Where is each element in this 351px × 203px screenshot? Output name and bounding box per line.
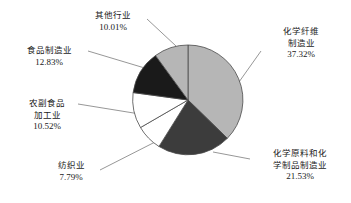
slice-label-textile: 纺织业 7.79% xyxy=(44,160,98,183)
leader-line-foodmfg xyxy=(88,51,148,69)
slice-label-chemfiber-line2: 制造业 xyxy=(262,38,340,50)
slice-label-agrofood-line1: 农副食品 xyxy=(16,98,78,110)
slice-label-chemraw-line1: 化学原料和化 xyxy=(252,148,348,160)
slice-value-chemfiber: 37.32% xyxy=(262,49,340,61)
slice-label-agrofood: 农副食品 加工业 10.52% xyxy=(16,98,78,133)
pie-chart-figure: 化学纤维 制造业 37.32% 化学原料和化 学制品制造业 21.53% 纺织业… xyxy=(0,0,351,203)
slice-label-others: 其他行业 10.01% xyxy=(80,10,146,33)
slice-value-foodmfg: 12.83% xyxy=(10,57,88,69)
slice-label-chemfiber: 化学纤维 制造业 37.32% xyxy=(262,26,340,61)
slice-label-textile-line1: 纺织业 xyxy=(44,160,98,172)
leader-line-textile xyxy=(100,140,159,170)
slice-label-chemraw: 化学原料和化 学制品制造业 21.53% xyxy=(252,148,348,183)
slice-value-agrofood: 10.52% xyxy=(16,121,78,133)
leader-line-chemraw xyxy=(213,152,250,159)
slice-label-foodmfg: 食品制造业 12.83% xyxy=(10,45,88,68)
slice-value-chemraw: 21.53% xyxy=(252,171,348,183)
slice-label-chemraw-line2: 学制品制造业 xyxy=(252,160,348,172)
pie-slices xyxy=(133,45,243,155)
slice-value-others: 10.01% xyxy=(80,22,146,34)
slice-label-agrofood-line2: 加工业 xyxy=(16,110,78,122)
leader-line-chemfiber xyxy=(239,51,261,82)
slice-value-textile: 7.79% xyxy=(44,172,98,184)
slice-label-chemfiber-line1: 化学纤维 xyxy=(262,26,340,38)
slice-label-others-line1: 其他行业 xyxy=(80,10,146,22)
leader-line-others xyxy=(147,19,176,46)
slice-label-foodmfg-line1: 食品制造业 xyxy=(10,45,88,57)
